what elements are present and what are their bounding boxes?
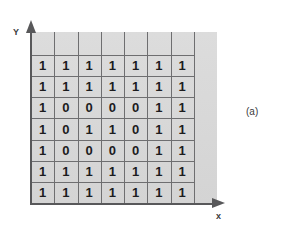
grid-cell: 1 bbox=[54, 161, 77, 182]
table-row: 1000011 bbox=[31, 140, 194, 161]
grid-cell: 1 bbox=[78, 182, 101, 203]
grid-cell: 1 bbox=[101, 161, 124, 182]
grid-cell: 1 bbox=[78, 161, 101, 182]
grid-cell: 1 bbox=[171, 76, 194, 97]
grid-cell: 1 bbox=[171, 140, 194, 161]
grid-cell: 0 bbox=[78, 97, 101, 118]
grid-cell: 1 bbox=[101, 119, 124, 140]
grid-cell: 1 bbox=[31, 76, 54, 97]
y-axis-arrow-icon bbox=[26, 20, 36, 33]
y-axis-label: Y bbox=[13, 27, 19, 37]
grid-cell: 1 bbox=[31, 119, 54, 140]
grid-cell: 1 bbox=[78, 119, 101, 140]
grid-cell: 1 bbox=[124, 161, 147, 182]
grid-cells: 1111111 1111111 1000011 1011011 1000011 … bbox=[31, 55, 194, 204]
grid-cell: 1 bbox=[31, 97, 54, 118]
grid-cell: 1 bbox=[171, 97, 194, 118]
x-axis-arrow-icon bbox=[212, 198, 225, 208]
grid-cell: 1 bbox=[171, 182, 194, 203]
grid-cell: 0 bbox=[54, 140, 77, 161]
grid-cell: 1 bbox=[124, 182, 147, 203]
table-row: 1111111 bbox=[31, 55, 194, 76]
grid-cell: 0 bbox=[124, 140, 147, 161]
grid-cell: 1 bbox=[78, 55, 101, 76]
grid-cell: 1 bbox=[147, 55, 170, 76]
grid-cell: 1 bbox=[171, 55, 194, 76]
grid-cell: 1 bbox=[54, 55, 77, 76]
grid-cell: 1 bbox=[101, 182, 124, 203]
grid-cell: 1 bbox=[147, 161, 170, 182]
grid-cell: 1 bbox=[124, 76, 147, 97]
x-axis-label: x bbox=[216, 211, 221, 221]
grid-cell: 1 bbox=[101, 55, 124, 76]
grid-cell: 1 bbox=[171, 119, 194, 140]
y-axis-line bbox=[30, 32, 32, 205]
grid-cell: 1 bbox=[147, 182, 170, 203]
figure-root: 1111111 1111111 1000011 1011011 1000011 … bbox=[0, 0, 286, 236]
grid-cell: 1 bbox=[171, 161, 194, 182]
grid-cell: 0 bbox=[54, 97, 77, 118]
grid-cell: 1 bbox=[124, 55, 147, 76]
grid-cell: 1 bbox=[54, 182, 77, 203]
table-row: 1111111 bbox=[31, 161, 194, 182]
grid-cell: 0 bbox=[124, 119, 147, 140]
grid-cell: 0 bbox=[101, 97, 124, 118]
table-row: 1000011 bbox=[31, 97, 194, 118]
gridline-vertical bbox=[194, 32, 195, 204]
grid-cell: 0 bbox=[54, 119, 77, 140]
grid-cell: 1 bbox=[147, 97, 170, 118]
grid-cell: 1 bbox=[147, 140, 170, 161]
grid-cell: 1 bbox=[54, 76, 77, 97]
figure-caption: (a) bbox=[246, 106, 258, 117]
grid-cell: 1 bbox=[147, 76, 170, 97]
grid-cell: 1 bbox=[101, 76, 124, 97]
table-row: 1111111 bbox=[31, 182, 194, 203]
grid-cell: 0 bbox=[101, 140, 124, 161]
grid-cell: 1 bbox=[31, 182, 54, 203]
grid-cell: 1 bbox=[31, 140, 54, 161]
grid-cell: 1 bbox=[31, 161, 54, 182]
table-row: 1111111 bbox=[31, 76, 194, 97]
grid-cell: 1 bbox=[147, 119, 170, 140]
grid-cell: 0 bbox=[124, 97, 147, 118]
x-axis-line bbox=[30, 203, 217, 205]
grid-cell: 1 bbox=[31, 55, 54, 76]
grid-cell: 1 bbox=[78, 76, 101, 97]
table-row: 1011011 bbox=[31, 119, 194, 140]
grid-cell: 0 bbox=[78, 140, 101, 161]
